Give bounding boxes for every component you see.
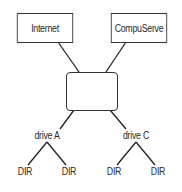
compuserve-node: CompuServe	[111, 13, 167, 43]
internet-node: Internet	[17, 13, 73, 43]
edge-hub-drive-c	[110, 110, 126, 129]
edge-drive-c-dir-2	[136, 142, 155, 165]
compuserve-label: CompuServe	[115, 23, 164, 34]
drive-a-label: drive A	[34, 130, 59, 142]
drive-c-dir-1-label: DIR	[107, 166, 121, 178]
edge-hub-drive-a	[60, 110, 74, 129]
internet-label: Internet	[31, 23, 59, 34]
edge-compuserve-hub	[106, 42, 126, 72]
drive-a-dir-2-label: DIR	[62, 166, 76, 178]
drive-c-dir-2-label: DIR	[151, 166, 165, 178]
hub-node	[66, 72, 118, 111]
drive-c-label: drive C	[123, 130, 149, 142]
edge-drive-a-dir-2	[47, 142, 66, 165]
edge-internet-hub	[58, 42, 79, 72]
drive-a-dir-1-label: DIR	[18, 166, 32, 178]
edge-drive-c-dir-1	[117, 142, 136, 165]
edge-drive-a-dir-1	[28, 142, 47, 165]
